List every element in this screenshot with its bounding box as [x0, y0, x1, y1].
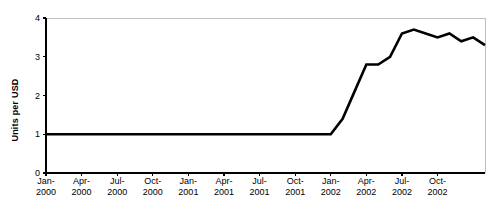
axes	[46, 18, 485, 173]
x-axis-tick-month: Oct-	[415, 176, 461, 187]
x-axis-tick-labels: Jan-2000Apr-2000Jul-2000Oct-2000Jan-2001…	[0, 176, 503, 212]
x-axis-tick-year: 2002	[415, 187, 461, 198]
x-axis-tick-label: Oct-2002	[415, 176, 461, 198]
plot-frame	[46, 18, 485, 173]
data-series-line	[46, 30, 485, 135]
chart-container: Units per USD 01234 Jan-2000Apr-2000Jul-…	[0, 0, 503, 220]
